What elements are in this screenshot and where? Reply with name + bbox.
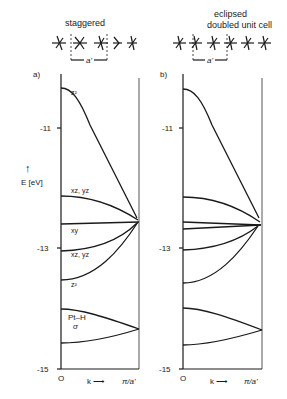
panel-a-cell-label: a' xyxy=(86,56,92,65)
eclipsed-chain-icon xyxy=(173,34,271,62)
staggered-chain-icon xyxy=(52,34,137,62)
ytick-minus-15: -15 xyxy=(37,365,49,374)
band-label-z2-lower: z² xyxy=(71,281,78,288)
panel-b-ytick-minus-13: -13 xyxy=(159,244,171,253)
panel-a-title: staggered xyxy=(65,18,105,28)
panel-a-xtick-k: k ⟶ xyxy=(87,377,105,386)
panel-b-xtick-origin: O xyxy=(180,374,186,383)
panel-a-bands xyxy=(61,88,139,343)
band-label-xy: xy xyxy=(71,227,79,235)
band-label-pth: Pt–H xyxy=(68,313,86,322)
panel-b-xtick-k: k ⟶ xyxy=(210,377,228,386)
ytick-minus-13: -13 xyxy=(37,244,49,253)
band-structure-figure: staggered a' eclipsed doubled unit cell xyxy=(0,0,287,399)
panel-b-title-line2: doubled unit cell xyxy=(207,20,272,30)
y-axis-label: E [eV] xyxy=(21,178,43,187)
panel-a-xtick-end: π/a' xyxy=(122,377,136,386)
panel-a-label: a) xyxy=(33,70,40,79)
band-label-xzyz-lower: xz, yz xyxy=(71,251,89,259)
ytick-minus-11: -11 xyxy=(40,124,52,133)
band-label-sigma: σ xyxy=(73,322,79,331)
panel-b-title-line1: eclipsed xyxy=(214,9,247,19)
panel-b-ytick-minus-11: -11 xyxy=(162,124,174,133)
band-label-z2-top: z² xyxy=(71,89,78,96)
band-label-xzyz-upper: xz, yz xyxy=(71,187,89,195)
panel-b-ytick-minus-15: -15 xyxy=(159,365,171,374)
panel-b-cell-label: a' xyxy=(207,56,213,65)
panel-a-xtick-origin: O xyxy=(58,374,64,383)
y-axis-arrow-icon: ↑ xyxy=(25,162,31,174)
panel-b-xtick-end: π/a' xyxy=(244,377,258,386)
panel-b-bands xyxy=(183,89,262,345)
panel-b-label: b) xyxy=(160,70,167,79)
